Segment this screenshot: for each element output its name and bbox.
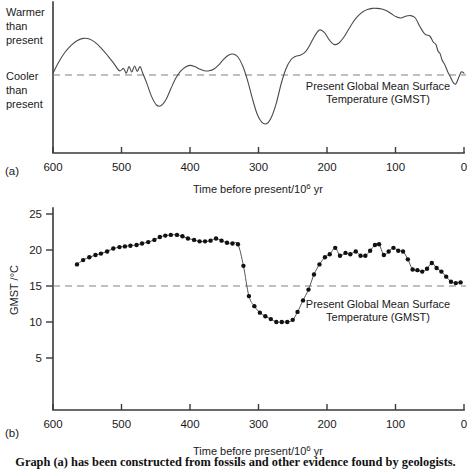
panel-b-data-point bbox=[386, 249, 390, 253]
panel-b-data-point bbox=[208, 238, 212, 242]
panel-a-x-tick-label: 400 bbox=[180, 161, 199, 173]
panel-b-data-point bbox=[280, 320, 284, 324]
panel-a-x-tick-label: 100 bbox=[386, 161, 405, 173]
panel-b-data-point bbox=[425, 267, 429, 271]
cooler-label-line-1: Cooler bbox=[6, 70, 39, 82]
panel-b-data-point bbox=[134, 243, 138, 247]
panel-b-data-point bbox=[274, 320, 278, 324]
panel-b-data-point bbox=[295, 310, 299, 314]
panel-a-gmst-annotation-line-1: Present Global Mean Surface bbox=[306, 80, 450, 92]
panel-b-y-tick-label: 10 bbox=[29, 316, 42, 328]
panel-b-x-ticks: 6005004003002001000 bbox=[43, 404, 467, 430]
warmer-label-line-2: than bbox=[6, 20, 27, 32]
panel-b-data-point bbox=[430, 261, 434, 265]
panel-b-data-point bbox=[105, 249, 109, 253]
panel-b-data-point bbox=[449, 279, 453, 283]
panel-a-x-tick-label: 0 bbox=[461, 161, 467, 173]
panel-b-data-point bbox=[401, 249, 405, 253]
panel-a-chart: Warmer than present Cooler than present … bbox=[0, 0, 471, 200]
panel-b-data-point bbox=[140, 241, 144, 245]
panel-b-chart: 6005004003002001000 510152025 Present Gl… bbox=[0, 200, 471, 462]
panel-b-data-point bbox=[146, 240, 150, 244]
panel-b-data-point bbox=[75, 262, 79, 266]
panel-b-x-tick-label: 100 bbox=[386, 418, 405, 430]
panel-b-data-point bbox=[377, 242, 381, 246]
cooler-label-line-3: present bbox=[6, 98, 43, 110]
panel-b-data-point bbox=[391, 246, 395, 250]
panel-a-y-side-labels: Warmer than present Cooler than present bbox=[6, 6, 45, 110]
cooler-label-line-2: than bbox=[6, 84, 27, 96]
panel-b-data-point bbox=[382, 253, 386, 257]
panel-b-data-point bbox=[180, 234, 184, 238]
panel-b-data-point bbox=[420, 269, 424, 273]
panel-b-data-point bbox=[117, 245, 121, 249]
panel-b-gmst-annotation-line-2: Temperature (GMST) bbox=[326, 311, 430, 323]
panel-b-data-point bbox=[263, 314, 267, 318]
panel-b-data-point bbox=[81, 258, 85, 262]
panel-a-axes bbox=[53, 2, 464, 153]
panel-b-data-point bbox=[247, 294, 251, 298]
panel-b-data-point bbox=[285, 320, 289, 324]
panel-b-data-point bbox=[111, 246, 115, 250]
panel-b-data-point bbox=[454, 281, 458, 285]
panel-b-data-point bbox=[252, 304, 256, 308]
panel-b-data-point bbox=[163, 233, 167, 237]
panel-a-x-axis-title: Time before present/106 yr bbox=[193, 182, 323, 196]
panel-b-data-point bbox=[214, 236, 218, 240]
panel-b-y-tick-label: 25 bbox=[29, 208, 42, 220]
panel-b-data-point bbox=[312, 272, 316, 276]
warmer-label-line-3: present bbox=[6, 34, 43, 46]
panel-b-data-point bbox=[192, 238, 196, 242]
panel-b-data-point bbox=[333, 246, 337, 250]
panel-b-y-ticks: 510152025 bbox=[29, 208, 53, 364]
panel-b-data-point bbox=[87, 255, 91, 259]
panel-b-data-point bbox=[373, 243, 377, 247]
panel-b-data-point bbox=[169, 233, 173, 237]
panel-a-gmst-annotation-line-2: Temperature (GMST) bbox=[326, 93, 430, 105]
panel-b-x-tick-label: 0 bbox=[461, 418, 467, 430]
panel-b-data-point bbox=[415, 268, 419, 272]
panel-b-data-point bbox=[410, 267, 414, 271]
panel-b-data-point bbox=[241, 264, 245, 268]
panel-a-x-tick-label: 200 bbox=[317, 161, 336, 173]
panel-b-data-point bbox=[225, 241, 229, 245]
panel-b-data-point bbox=[406, 257, 410, 261]
panel-b-y-tick-label: 15 bbox=[29, 280, 42, 292]
panel-a-label: (a) bbox=[5, 165, 19, 177]
panel-b-data-point bbox=[301, 298, 305, 302]
figure-root: Warmer than present Cooler than present … bbox=[0, 0, 471, 472]
panel-b-label: (b) bbox=[5, 427, 19, 439]
panel-b-data-point bbox=[123, 244, 127, 248]
panel-b-data-point bbox=[236, 242, 240, 246]
panel-b-data-point bbox=[219, 238, 223, 242]
panel-b-x-tick-label: 200 bbox=[317, 418, 336, 430]
panel-b-y-axis-title: GMST /°C bbox=[8, 265, 20, 315]
panel-b-data-point bbox=[175, 233, 179, 237]
panel-b-data-point bbox=[439, 269, 443, 273]
panel-b-data-point bbox=[99, 251, 103, 255]
panel-b-data-point bbox=[128, 243, 132, 247]
panel-b-data-point bbox=[444, 274, 448, 278]
panel-b-data-point bbox=[358, 254, 362, 258]
panel-b-data-point bbox=[152, 238, 156, 242]
panel-b-data-point bbox=[343, 251, 347, 255]
panel-b-gmst-annotation-line-1: Present Global Mean Surface bbox=[306, 298, 450, 310]
panel-b-data-point bbox=[291, 318, 295, 322]
panel-b-data-point bbox=[368, 249, 372, 253]
panel-b-data-point bbox=[186, 236, 190, 240]
panel-b-data-point bbox=[230, 241, 234, 245]
panel-b-x-tick-label: 300 bbox=[249, 418, 268, 430]
panel-b-data-point bbox=[354, 249, 358, 253]
panel-b-data-point bbox=[158, 235, 162, 239]
panel-b-data-point bbox=[269, 317, 273, 321]
panel-a-x-tick-label: 300 bbox=[249, 161, 268, 173]
panel-a-x-tick-label: 500 bbox=[112, 161, 131, 173]
panel-b-data-point bbox=[306, 287, 310, 291]
panel-b-x-tick-label: 500 bbox=[112, 418, 131, 430]
panel-a-curve bbox=[53, 8, 464, 124]
panel-b-y-tick-label: 20 bbox=[29, 244, 42, 256]
warmer-label-line-1: Warmer bbox=[6, 6, 45, 18]
panel-b-y-tick-label: 5 bbox=[36, 352, 42, 364]
panel-a-axis-lines bbox=[53, 2, 464, 153]
panel-b-data-point bbox=[323, 255, 327, 259]
